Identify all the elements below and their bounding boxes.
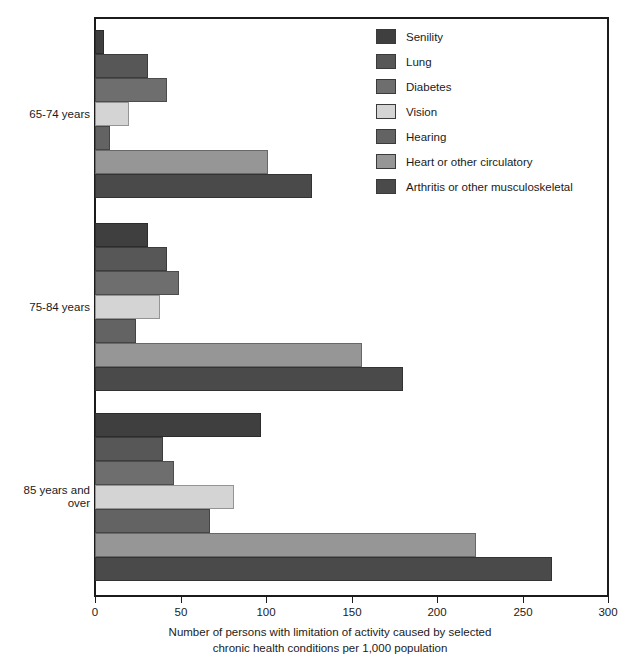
legend-item: Arthritis or other musculoskeletal: [376, 174, 598, 199]
category-label: 85 years andover: [4, 484, 90, 510]
legend-item: Lung: [376, 49, 598, 74]
bar: [95, 126, 110, 150]
legend-item-label: Diabetes: [406, 80, 451, 94]
legend-item-label: Senility: [406, 30, 443, 44]
bar: [95, 150, 268, 174]
legend-swatch-icon: [376, 129, 396, 144]
category-label-line: 85 years and: [4, 484, 90, 497]
x-axis-title-line1: Number of persons with limitation of act…: [60, 624, 600, 640]
bar: [95, 30, 104, 54]
bar: [95, 485, 234, 509]
bar: [95, 367, 403, 391]
bar-chart: 65-74 years75-84 years85 years andover 0…: [0, 0, 641, 666]
category-label-line: 75-84 years: [4, 301, 90, 314]
legend-swatch-icon: [376, 154, 396, 169]
bar: [95, 295, 160, 319]
bar: [95, 343, 362, 367]
category-axis-labels: 65-74 years75-84 years85 years andover: [0, 0, 90, 666]
x-axis-tick-label: 50: [161, 605, 201, 619]
bar: [95, 461, 174, 485]
category-label: 65-74 years: [4, 108, 90, 121]
category-label: 75-84 years: [4, 301, 90, 314]
bar: [95, 271, 179, 295]
legend-swatch-icon: [376, 104, 396, 119]
legend-item-label: Arthritis or other musculoskeletal: [406, 180, 573, 194]
bar: [95, 557, 552, 581]
x-axis-tick-label: 250: [503, 605, 543, 619]
x-axis-tick: [181, 597, 182, 603]
legend-swatch-icon: [376, 54, 396, 69]
legend-item: Vision: [376, 99, 598, 124]
chart-legend: SenilityLungDiabetesVisionHearingHeart o…: [376, 24, 598, 199]
bar: [95, 437, 163, 461]
bar: [95, 319, 136, 343]
legend-swatch-icon: [376, 29, 396, 44]
legend-item: Hearing: [376, 124, 598, 149]
bar: [95, 102, 129, 126]
x-axis-tick: [523, 597, 524, 603]
bar: [95, 223, 148, 247]
bar: [95, 54, 148, 78]
legend-item: Diabetes: [376, 74, 598, 99]
x-axis-tick: [352, 597, 353, 603]
x-axis-tick-label: 100: [246, 605, 286, 619]
legend-item-label: Lung: [406, 55, 432, 69]
bar: [95, 533, 476, 557]
legend-item: Heart or other circulatory: [376, 149, 598, 174]
x-axis-tick-label: 150: [332, 605, 372, 619]
bar: [95, 174, 312, 198]
legend-item: Senility: [376, 24, 598, 49]
x-axis-title-line2: chronic health conditions per 1,000 popu…: [60, 640, 600, 656]
category-label-line: over: [4, 497, 90, 510]
x-axis-title: Number of persons with limitation of act…: [60, 624, 600, 656]
bar: [95, 78, 167, 102]
bar: [95, 509, 210, 533]
legend-swatch-icon: [376, 79, 396, 94]
x-axis-tick-label: 200: [417, 605, 457, 619]
x-axis-tick-label: 300: [588, 605, 628, 619]
x-axis-tick: [95, 597, 96, 603]
legend-swatch-icon: [376, 179, 396, 194]
legend-item-label: Hearing: [406, 130, 446, 144]
bar: [95, 247, 167, 271]
x-axis-tick: [437, 597, 438, 603]
category-label-line: 65-74 years: [4, 108, 90, 121]
x-axis-tick: [266, 597, 267, 603]
x-axis-tick: [608, 597, 609, 603]
legend-item-label: Vision: [406, 105, 437, 119]
legend-item-label: Heart or other circulatory: [406, 155, 533, 169]
bar: [95, 413, 261, 437]
